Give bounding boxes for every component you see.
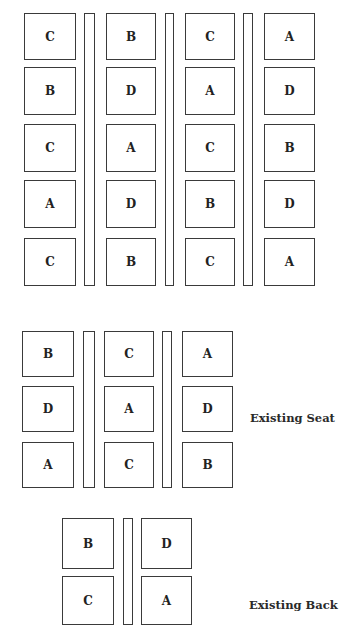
pattern-cell: A <box>182 331 233 377</box>
pattern-cell: B <box>106 13 156 60</box>
pattern-cell: C <box>185 238 235 286</box>
pattern-cell: D <box>264 180 315 228</box>
pattern-cell: A <box>141 576 192 625</box>
pattern-cell: D <box>106 67 156 115</box>
pattern-cell: C <box>104 331 154 377</box>
pattern-cell: D <box>141 518 192 569</box>
pattern-cell: A <box>264 238 315 286</box>
column-separator <box>83 331 95 488</box>
column-separator <box>123 518 133 625</box>
pattern-cell: C <box>104 442 154 488</box>
pattern-cell: B <box>22 331 74 377</box>
column-separator <box>243 13 253 286</box>
existing-back-label: Existing Back <box>249 598 338 612</box>
pattern-cell: C <box>24 124 76 172</box>
pattern-cell: B <box>182 442 233 488</box>
pattern-cell: D <box>264 67 315 115</box>
pattern-cell: A <box>24 180 76 228</box>
pattern-cell: C <box>24 238 76 286</box>
pattern-cell: A <box>104 386 154 432</box>
pattern-cell: C <box>62 576 114 625</box>
pattern-cell: B <box>62 518 114 569</box>
pattern-cell: B <box>264 124 315 172</box>
column-separator <box>84 13 95 286</box>
pattern-cell: D <box>182 386 233 432</box>
pattern-cell: B <box>106 238 156 286</box>
existing-seat-label: Existing Seat <box>250 411 335 425</box>
pattern-cell: A <box>264 13 315 60</box>
pattern-cell: B <box>24 67 76 115</box>
column-separator <box>162 331 172 488</box>
pattern-cell: C <box>185 124 235 172</box>
pattern-cell: C <box>24 13 76 60</box>
pattern-cell: D <box>106 180 156 228</box>
pattern-cell: A <box>22 442 74 488</box>
pattern-cell: A <box>106 124 156 172</box>
pattern-cell: B <box>185 180 235 228</box>
pattern-cell: A <box>185 67 235 115</box>
pattern-cell: D <box>22 386 74 432</box>
column-separator <box>165 13 174 286</box>
pattern-cell: C <box>185 13 235 60</box>
